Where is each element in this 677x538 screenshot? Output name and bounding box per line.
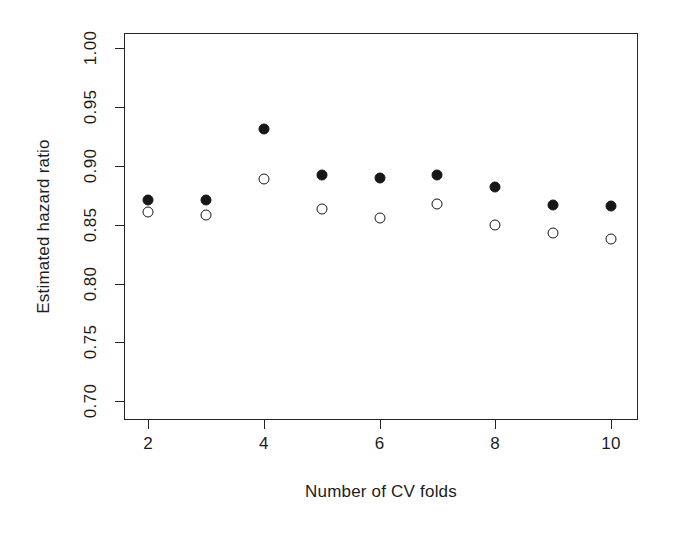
data-point-filled	[200, 195, 211, 206]
x-axis-tick-label: 2	[143, 434, 153, 454]
y-axis-tick-mark	[115, 166, 125, 167]
data-point-open	[432, 198, 443, 209]
y-axis-tick-label: 0.80	[81, 266, 101, 300]
x-axis-tick-mark	[611, 419, 612, 429]
x-axis-tick-mark	[380, 419, 381, 429]
data-point-filled	[143, 195, 154, 206]
data-point-open	[143, 206, 154, 217]
data-points-layer	[125, 34, 637, 419]
x-axis-title: Number of CV folds	[124, 482, 638, 502]
data-point-open	[374, 212, 385, 223]
x-axis-tick-mark	[495, 419, 496, 429]
y-axis-tick-mark	[115, 107, 125, 108]
data-point-filled	[316, 170, 327, 181]
y-axis-tick-label: 0.90	[81, 149, 101, 183]
y-axis-tick-mark	[115, 284, 125, 285]
y-axis-tick-label: 0.70	[81, 384, 101, 418]
data-point-open	[548, 227, 559, 238]
plot-frame: 0.700.750.800.850.900.951.00246810	[124, 33, 638, 420]
scatter-plot-figure: 0.700.750.800.850.900.951.00246810 Numbe…	[0, 0, 677, 538]
x-axis-tick-label: 6	[375, 434, 385, 454]
data-point-filled	[490, 182, 501, 193]
y-axis-tick-mark	[115, 48, 125, 49]
x-axis-tick-label: 4	[259, 434, 269, 454]
y-axis-title: Estimated hazard ratio	[34, 33, 54, 420]
x-axis-tick-mark	[264, 419, 265, 429]
data-point-filled	[432, 170, 443, 181]
y-axis-tick-label: 0.95	[81, 90, 101, 124]
x-axis-tick-label: 8	[490, 434, 500, 454]
data-point-filled	[605, 200, 616, 211]
data-point-filled	[374, 172, 385, 183]
x-axis-tick-mark	[148, 419, 149, 429]
y-axis-tick-label: 1.00	[81, 31, 101, 65]
data-point-open	[316, 204, 327, 215]
data-point-filled	[548, 199, 559, 210]
data-point-filled	[258, 124, 269, 135]
y-axis-tick-label: 0.75	[81, 325, 101, 359]
y-axis-tick-mark	[115, 401, 125, 402]
data-point-open	[605, 233, 616, 244]
data-point-open	[200, 210, 211, 221]
y-axis-tick-label: 0.85	[81, 208, 101, 242]
y-axis-tick-mark	[115, 342, 125, 343]
x-axis-tick-label: 10	[601, 434, 621, 454]
y-axis-tick-mark	[115, 225, 125, 226]
data-point-open	[490, 219, 501, 230]
data-point-open	[258, 173, 269, 184]
